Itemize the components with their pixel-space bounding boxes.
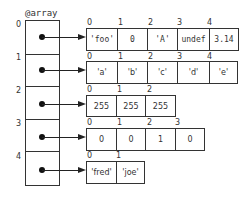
main-index-1: 1 (16, 54, 21, 62)
arrow-head-icon (78, 134, 86, 140)
row1-cell-1: 'b' (118, 62, 148, 83)
pointer-line-3 (42, 137, 79, 138)
row4-index-1: 1 (116, 152, 121, 160)
row1-cell-2: 'c' (148, 62, 178, 83)
row0-cell-3: undef (178, 29, 210, 50)
row3-cell-1: 0 (117, 129, 146, 150)
row3-index-3: 3 (175, 119, 180, 127)
pointer-line-2 (42, 104, 79, 105)
row0-index-1: 1 (118, 19, 123, 27)
row1-index-4: 4 (207, 53, 212, 61)
array-name-label: @array (25, 8, 58, 18)
pointer-line-1 (42, 70, 79, 71)
row3-cell-3: 0 (176, 129, 204, 150)
row1-cell-4: 'e' (210, 62, 237, 83)
main-index-0: 0 (16, 21, 21, 29)
row1-index-1: 1 (118, 53, 123, 61)
row0-index-3: 3 (177, 19, 182, 27)
row-0-array: 'foo' 0 'A' undef 3.14 (86, 28, 239, 51)
main-index-2: 2 (16, 87, 21, 95)
row2-cell-0: 255 (87, 96, 117, 116)
row3-index-2: 2 (147, 119, 152, 127)
row0-index-4: 4 (207, 19, 212, 27)
row1-index-3: 3 (177, 53, 182, 61)
row-4-array: 'fred' 'joe' (86, 161, 145, 184)
row2-cell-1: 255 (117, 96, 146, 116)
row-2-array: 255 255 255 (86, 95, 176, 117)
row1-cell-3: 'd' (178, 62, 210, 83)
row2-index-1: 1 (117, 86, 122, 94)
row4-cell-1: 'joe' (117, 162, 144, 183)
row2-index-0: 0 (87, 86, 92, 94)
row3-index-0: 0 (87, 119, 92, 127)
row3-cell-2: 1 (146, 129, 176, 150)
row4-index-0: 0 (87, 152, 92, 160)
arrow-head-icon (78, 101, 86, 107)
row2-cell-2: 255 (146, 96, 175, 116)
row-1-array: 'a' 'b' 'c' 'd' 'e' (86, 61, 238, 84)
row0-cell-4: 3.14 (210, 29, 238, 50)
row1-index-2: 2 (148, 53, 153, 61)
row4-cell-0: 'fred' (87, 162, 117, 183)
row0-index-0: 0 (87, 19, 92, 27)
row-3-array: 0 0 1 0 (86, 128, 205, 151)
row2-index-2: 2 (147, 86, 152, 94)
row1-cell-0: 'a' (87, 62, 118, 83)
row1-index-0: 0 (87, 53, 92, 61)
row0-cell-1: 0 (118, 29, 148, 50)
row3-cell-0: 0 (87, 129, 117, 150)
arrow-head-icon (78, 167, 86, 173)
row3-index-1: 1 (117, 119, 122, 127)
main-index-4: 4 (16, 153, 21, 161)
row0-index-2: 2 (148, 19, 153, 27)
arrow-head-icon (78, 34, 86, 40)
row0-cell-2: 'A' (148, 29, 178, 50)
arrow-head-icon (78, 67, 86, 73)
main-index-3: 3 (16, 120, 21, 128)
pointer-line-4 (42, 170, 79, 171)
pointer-line-0 (42, 37, 79, 38)
row0-cell-0: 'foo' (87, 29, 118, 50)
